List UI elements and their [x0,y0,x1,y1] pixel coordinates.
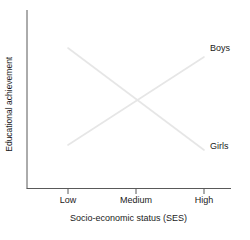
series-label-boys: Boys [210,44,230,53]
x-tick-label-low: Low [38,196,98,205]
x-tick-label-medium: Medium [106,196,166,205]
chart-figure: Educational achievement Socio-economic s… [0,0,250,240]
y-axis-label: Educational achievement [5,39,14,169]
x-axis-label: Socio-economic status (SES) [27,214,230,223]
x-tick-label-high: High [174,196,234,205]
series-label-girls: Girls [210,142,229,151]
